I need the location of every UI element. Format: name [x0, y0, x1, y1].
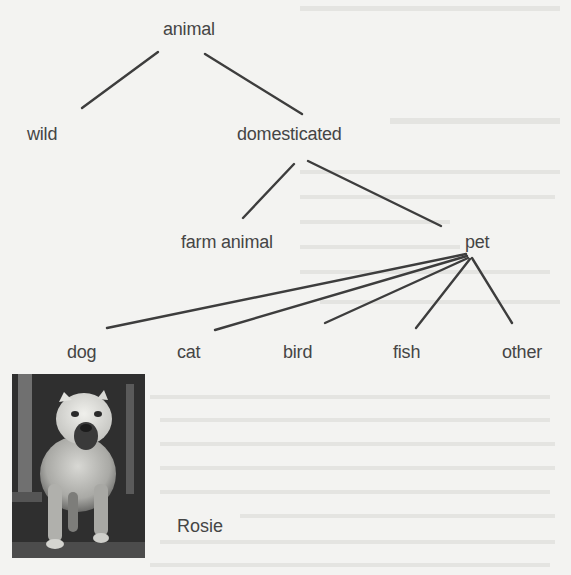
edge-domesticated-pet: [308, 161, 441, 226]
node-cat: cat: [177, 343, 200, 361]
edge-domesticated-farm-animal: [243, 164, 294, 218]
node-bird: bird: [283, 343, 312, 361]
edge-pet-other: [472, 258, 512, 323]
node-animal: animal: [163, 20, 215, 38]
node-wild: wild: [27, 125, 57, 143]
edge-animal-wild: [82, 52, 158, 108]
edge-animal-domesticated: [205, 54, 302, 114]
node-farm-animal: farm animal: [181, 233, 273, 251]
edge-pet-cat: [215, 256, 467, 330]
node-domesticated: domesticated: [237, 125, 342, 143]
dog-photo: [12, 374, 145, 558]
node-other: other: [502, 343, 542, 361]
node-dog: dog: [67, 343, 96, 361]
edge-pet-dog: [107, 254, 466, 328]
node-fish: fish: [393, 343, 420, 361]
node-pet: pet: [465, 233, 489, 251]
photo-caption: Rosie: [177, 517, 223, 535]
